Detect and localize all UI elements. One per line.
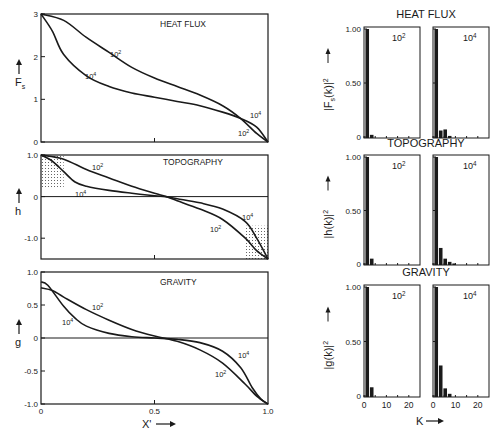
svg-text:0: 0	[357, 392, 362, 401]
svg-text:0: 0	[357, 260, 362, 269]
svg-text:HEAT FLUX: HEAT FLUX	[396, 8, 456, 20]
svg-text:20: 20	[473, 400, 483, 410]
svg-text:102: 102	[210, 224, 221, 234]
svg-text:102: 102	[110, 49, 121, 59]
line-panel-topography: 1.00-1.0TOPOGRAPHY102104104102h	[15, 151, 268, 259]
svg-text:1.0: 1.0	[27, 268, 39, 277]
svg-text:104: 104	[238, 350, 249, 360]
svg-text:1.00: 1.00	[345, 283, 361, 292]
svg-text:10: 10	[382, 400, 392, 410]
svg-text:GRAVITY: GRAVITY	[402, 266, 450, 278]
svg-text:102: 102	[392, 160, 406, 171]
svg-text:-0.5: -0.5	[24, 367, 38, 376]
svg-text:TOPOGRAPHY: TOPOGRAPHY	[163, 157, 223, 167]
svg-text:104: 104	[463, 290, 477, 301]
svg-text:2: 2	[34, 53, 39, 62]
svg-text:HEAT FLUX: HEAT FLUX	[160, 19, 206, 29]
svg-text:0.5: 0.5	[149, 407, 161, 416]
svg-text:104: 104	[463, 32, 477, 43]
figure: 0123HEAT FLUX102104104102Fs1.00-1.0TOPOG…	[0, 0, 504, 435]
svg-text:20: 20	[404, 400, 414, 410]
svg-text:104: 104	[463, 160, 477, 171]
svg-text:Fs: Fs	[15, 76, 26, 90]
svg-text:104: 104	[62, 317, 73, 327]
svg-text:1.00: 1.00	[345, 25, 361, 34]
line-panel-gravity: 1.00.50-0.5-1.0GRAVITY102104104102g00.51…	[15, 268, 274, 416]
svg-text:102: 102	[392, 290, 406, 301]
svg-text:102: 102	[92, 162, 103, 172]
bar-panel-topography: TOPOGRAPHY10210400.501.00|h(k)|2	[322, 137, 489, 269]
svg-text:0.50: 0.50	[345, 79, 361, 88]
svg-text:g: g	[15, 336, 21, 348]
svg-text:GRAVITY: GRAVITY	[160, 277, 197, 287]
line-panel-heat-flux: 0123HEAT FLUX102104104102Fs	[15, 10, 268, 147]
svg-text:102: 102	[215, 369, 226, 379]
svg-text:3: 3	[34, 10, 39, 19]
svg-text:h: h	[15, 205, 21, 217]
svg-text:1.0: 1.0	[262, 407, 274, 416]
bar-panel-gravity: GRAVITY102010201040102000.501.00|g(k)|2	[322, 266, 489, 410]
svg-text:0: 0	[362, 400, 367, 410]
svg-text:-1.0: -1.0	[24, 234, 38, 243]
svg-text:|Fs(k)|2: |Fs(k)|2	[322, 78, 336, 111]
svg-text:0: 0	[34, 138, 39, 147]
svg-text:TOPOGRAPHY: TOPOGRAPHY	[387, 137, 465, 149]
svg-text:|h(k)|2: |h(k)|2	[322, 210, 334, 239]
svg-text:0: 0	[357, 133, 362, 142]
svg-text:0.5: 0.5	[27, 301, 39, 310]
svg-text:104: 104	[75, 189, 86, 199]
svg-text:104: 104	[250, 110, 261, 120]
svg-text:10: 10	[451, 400, 461, 410]
bar-panel-heat-flux: HEAT FLUX10210400.501.00|Fs(k)|2	[322, 8, 489, 142]
k-axis-label: K	[416, 415, 424, 427]
svg-text:102: 102	[92, 302, 103, 312]
svg-text:|g(k)|2: |g(k)|2	[322, 341, 334, 370]
svg-text:0.50: 0.50	[345, 207, 361, 216]
svg-text:104: 104	[85, 71, 96, 81]
svg-text:0: 0	[431, 400, 436, 410]
svg-text:0: 0	[34, 334, 39, 343]
svg-text:1.00: 1.00	[345, 153, 361, 162]
svg-text:102: 102	[392, 32, 406, 43]
svg-text:0: 0	[34, 193, 39, 202]
svg-text:1.0: 1.0	[27, 151, 39, 160]
svg-text:0.50: 0.50	[345, 338, 361, 347]
x-axis-label: X'	[142, 418, 151, 430]
svg-text:104: 104	[242, 212, 253, 222]
svg-text:-1.0: -1.0	[24, 400, 38, 409]
svg-text:1: 1	[34, 95, 39, 104]
svg-text:0: 0	[39, 407, 44, 416]
svg-text:102: 102	[238, 128, 249, 138]
